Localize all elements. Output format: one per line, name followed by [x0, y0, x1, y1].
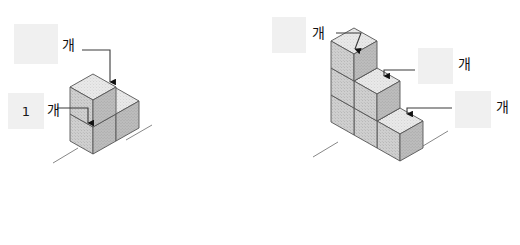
unit-label-left-bottom: 개	[47, 103, 60, 117]
right-cube-figure: 개 개 개	[260, 0, 520, 245]
right-leader-bottom	[407, 108, 452, 114]
worksheet-canvas: 개 1 개	[0, 0, 520, 245]
answer-box-right-bottom[interactable]	[455, 91, 491, 128]
unit-label-right-middle: 개	[458, 57, 471, 71]
unit-label-right-top: 개	[312, 26, 325, 40]
answer-box-right-top[interactable]	[272, 17, 306, 53]
answer-box-left-bottom[interactable]: 1	[8, 93, 44, 129]
unit-label-right-bottom: 개	[496, 100, 509, 114]
answer-box-right-middle[interactable]	[418, 48, 453, 84]
unit-label-left-top: 개	[62, 38, 75, 52]
left-cube-figure: 개 1 개	[0, 0, 260, 245]
answer-box-left-top[interactable]	[14, 24, 58, 64]
